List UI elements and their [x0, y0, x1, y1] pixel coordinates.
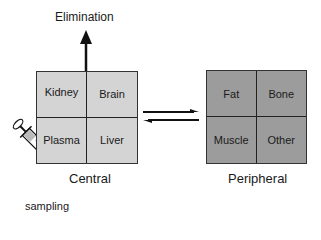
cell-brain: Brain [87, 72, 137, 118]
equilibrium-arrows-icon [143, 109, 199, 123]
cell-muscle: Muscle [207, 117, 257, 163]
elimination-arrow-icon [80, 30, 92, 71]
peripheral-compartment: Fat Bone Muscle Other [206, 70, 307, 164]
cell-other: Other [257, 117, 307, 163]
cell-liver: Liver [87, 118, 137, 164]
cell-bone: Bone [257, 71, 307, 117]
peripheral-label: Peripheral [228, 171, 287, 186]
sampling-label: sampling [25, 200, 69, 212]
cell-plasma: Plasma [37, 118, 87, 164]
cell-kidney: Kidney [37, 72, 87, 118]
central-compartment: Kidney Brain Plasma Liver [36, 71, 138, 164]
central-label: Central [69, 171, 111, 186]
cell-fat: Fat [207, 71, 257, 117]
